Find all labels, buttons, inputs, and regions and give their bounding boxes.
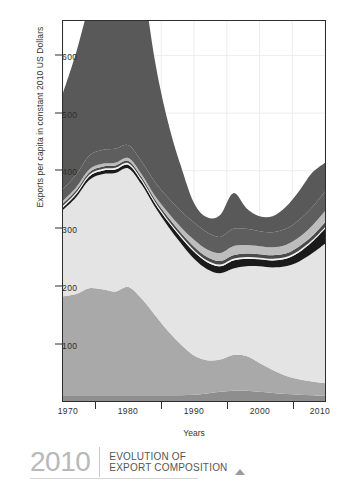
footer-title-line1: EVOLUTION OF xyxy=(109,451,227,463)
footer-rule xyxy=(30,478,198,479)
triangle-up-icon xyxy=(235,469,245,475)
y-axis-title: Exports per capita in constant 2010 US D… xyxy=(35,7,45,227)
y-tick-mark xyxy=(55,112,62,113)
y-tick-mark xyxy=(55,286,62,287)
footer-banner: 2010 EVOLUTION OF EXPORT COMPOSITION xyxy=(30,446,310,478)
stacked-area-chart xyxy=(63,21,325,401)
y-tick-mark xyxy=(55,170,62,171)
y-tick-mark xyxy=(55,54,62,55)
x-tick-mark xyxy=(293,402,294,409)
x-tick-mark xyxy=(161,402,162,409)
x-tick-mark xyxy=(227,402,228,409)
y-tick-label: 100 xyxy=(62,335,65,353)
y-tick-text: 100 xyxy=(62,341,77,351)
footer-title: EVOLUTION OF EXPORT COMPOSITION xyxy=(100,451,227,474)
plot-area xyxy=(62,20,326,402)
y-tick-label: 400 xyxy=(62,161,65,179)
footer-title-line2: EXPORT COMPOSITION xyxy=(109,462,227,474)
y-tick-label: 300 xyxy=(62,219,65,237)
y-tick-text: 500 xyxy=(62,110,77,120)
x-tick-label: 2000 xyxy=(250,406,271,416)
x-tick-label: 1970 xyxy=(58,406,79,416)
y-tick-label: 500 xyxy=(62,104,65,122)
y-tick-text: 400 xyxy=(62,167,77,177)
y-tick-text: 200 xyxy=(62,283,77,293)
y-tick-mark xyxy=(55,228,62,229)
x-axis-title: Years xyxy=(62,428,326,438)
y-tick-text: 600 xyxy=(62,52,77,62)
y-tick-text: 300 xyxy=(62,225,77,235)
x-tick-mark xyxy=(95,402,96,409)
y-tick-mark xyxy=(55,344,62,345)
footer-year: 2010 xyxy=(30,448,99,476)
y-tick-label: 200 xyxy=(62,277,65,295)
y-tick-label: 600 xyxy=(62,46,65,64)
x-tick-label: 1980 xyxy=(118,406,139,416)
figure-root: Exports per capita in constant 2010 US D… xyxy=(0,0,339,481)
x-tick-label: 2010 xyxy=(310,406,331,416)
x-tick-label: 1990 xyxy=(184,406,205,416)
